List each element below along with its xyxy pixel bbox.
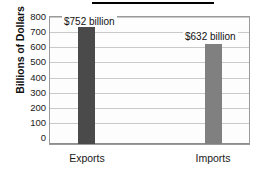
y-tick-100: 100 — [20, 118, 46, 128]
x-tick-label-exports: Exports — [52, 152, 122, 164]
data-label-imports: $632 billion — [183, 31, 238, 42]
y-tick-200: 200 — [20, 103, 46, 113]
y-tick-0: 0 — [20, 133, 46, 143]
y-axis-tick-labels: 800 700 600 500 400 300 200 100 0 — [17, 16, 46, 145]
y-tick-500: 500 — [20, 57, 46, 67]
plot-area: $752 billion $632 billion — [49, 16, 250, 145]
bar-imports[interactable] — [205, 44, 222, 144]
y-tick-300: 300 — [20, 88, 46, 98]
y-tick-600: 600 — [20, 42, 46, 52]
y-tick-800: 800 — [20, 12, 46, 22]
x-tick-label-imports: Imports — [178, 152, 248, 164]
data-label-exports: $752 billion — [62, 16, 117, 27]
bar-chart: Billions of Dollars 800 700 600 500 400 … — [0, 0, 257, 176]
y-tick-400: 400 — [20, 73, 46, 83]
y-tick-700: 700 — [20, 27, 46, 37]
bar-exports[interactable] — [78, 25, 95, 144]
